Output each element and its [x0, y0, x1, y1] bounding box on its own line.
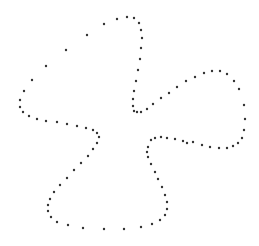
outline-dot — [73, 169, 75, 171]
outline-dot — [138, 22, 140, 24]
outline-dot — [157, 178, 159, 180]
outline-dot — [164, 194, 166, 196]
outline-dot — [133, 110, 135, 112]
outline-dot — [49, 198, 51, 200]
outline-dot — [137, 69, 139, 71]
outline-dot — [150, 163, 152, 165]
outline-dot — [96, 142, 98, 144]
outline-dot — [241, 137, 243, 139]
outline-dot — [47, 210, 49, 212]
outline-dot — [140, 29, 142, 31]
outline-dot — [86, 34, 88, 36]
outline-dot — [176, 86, 178, 88]
outline-dot — [201, 144, 203, 146]
outline-dot — [243, 104, 245, 106]
outline-dot — [65, 49, 67, 51]
outline-dot — [226, 147, 228, 149]
outline-dot — [36, 118, 38, 120]
outline-dot — [66, 123, 68, 125]
outline-dot — [244, 118, 246, 120]
outline-dot — [164, 214, 166, 216]
outline-dot — [174, 138, 176, 140]
outline-dot — [232, 145, 234, 147]
outline-dot — [243, 129, 245, 131]
outline-dot — [132, 105, 134, 107]
outline-dot — [19, 99, 21, 101]
outline-dot — [59, 184, 61, 186]
outline-dot — [237, 142, 239, 144]
outline-dot — [126, 16, 128, 18]
outline-dot — [152, 103, 154, 105]
outline-dot — [56, 121, 58, 123]
outline-dot — [96, 132, 98, 134]
outline-dot — [85, 127, 87, 129]
outline-dot — [185, 80, 187, 82]
outline-dot — [147, 146, 149, 148]
outline-dot — [87, 155, 89, 157]
outline-dot — [132, 98, 134, 100]
outline-dot — [166, 201, 168, 203]
outline-dot — [45, 65, 47, 67]
outline-dot — [146, 108, 148, 110]
outline-dot — [182, 140, 184, 142]
outline-dot — [168, 92, 170, 94]
outline-dot — [166, 208, 168, 210]
outline-dot — [150, 139, 152, 141]
outline-dot — [166, 137, 168, 139]
outline-dot — [135, 80, 137, 82]
outline-dot — [203, 72, 205, 74]
outline-dot — [218, 147, 220, 149]
outline-dot — [67, 224, 69, 226]
outline-dot — [47, 204, 49, 206]
outline-dot — [80, 162, 82, 164]
outline-dot — [211, 70, 213, 72]
outline-dot — [50, 216, 52, 218]
outline-dot — [147, 156, 149, 158]
outline-dot — [92, 148, 94, 150]
outline-dot — [23, 90, 25, 92]
outline-dot — [22, 111, 24, 113]
outline-dot — [45, 120, 47, 122]
outline-dot — [219, 70, 221, 72]
outline-dot — [103, 23, 105, 25]
outline-dot — [116, 18, 118, 20]
outline-dot — [140, 111, 142, 113]
outline-dot — [28, 115, 30, 117]
outline-dot — [56, 221, 58, 223]
outline-dot — [133, 90, 135, 92]
outline-dot — [140, 226, 142, 228]
outline-dot — [154, 171, 156, 173]
outline-dot — [92, 129, 94, 131]
outline-dot — [209, 146, 211, 148]
outline-dot — [53, 191, 55, 193]
outline-dot — [226, 73, 228, 75]
outline-dot — [146, 151, 148, 153]
outline-dot — [140, 47, 142, 49]
outline-dot — [31, 79, 33, 81]
outline-dot — [161, 186, 163, 188]
outline-dot — [233, 80, 235, 82]
outline-dot — [160, 136, 162, 138]
outline-dot — [103, 228, 105, 230]
outline-dot — [160, 97, 162, 99]
outline-dot — [19, 106, 21, 108]
dotted-blob-outline — [0, 0, 259, 246]
outline-dot — [98, 136, 100, 138]
outline-dot — [238, 88, 240, 90]
outline-dot — [66, 177, 68, 179]
dotted-shape-canvas — [0, 0, 259, 246]
outline-dot — [154, 137, 156, 139]
outline-dot — [151, 223, 153, 225]
outline-dot — [186, 142, 188, 144]
outline-dot — [192, 141, 194, 143]
outline-dot — [159, 219, 161, 221]
outline-dot — [76, 125, 78, 127]
outline-dot — [123, 228, 125, 230]
outline-dot — [139, 58, 141, 60]
outline-dot — [133, 17, 135, 19]
outline-dot — [141, 37, 143, 39]
outline-dot — [82, 227, 84, 229]
outline-dot — [194, 76, 196, 78]
outline-dot — [136, 111, 138, 113]
